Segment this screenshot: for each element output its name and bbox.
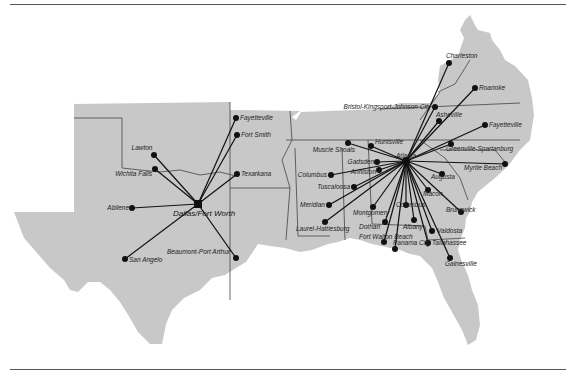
city-label: Dothan bbox=[359, 223, 380, 230]
city-label: Valdosta bbox=[437, 227, 462, 234]
city-marker-icon[interactable] bbox=[368, 143, 374, 149]
city-label: Montgomery bbox=[353, 209, 390, 217]
city-marker-icon[interactable] bbox=[152, 166, 158, 172]
city-label: Fort Walton Beach bbox=[359, 233, 413, 240]
city-label: Tuscaloosa bbox=[317, 183, 350, 190]
city-marker-icon[interactable] bbox=[233, 255, 239, 261]
city-marker-icon[interactable] bbox=[328, 172, 334, 178]
city-marker-icon[interactable] bbox=[472, 85, 478, 91]
city-marker-icon[interactable] bbox=[234, 132, 240, 138]
city-marker-icon[interactable] bbox=[151, 152, 157, 158]
city-marker-icon[interactable] bbox=[502, 161, 508, 167]
city-marker-icon[interactable] bbox=[234, 171, 240, 177]
city-marker-icon[interactable] bbox=[446, 60, 452, 66]
city-label: Fayetteville bbox=[489, 121, 522, 129]
land-mass bbox=[14, 15, 534, 345]
city-marker-icon[interactable] bbox=[351, 184, 357, 190]
city-marker-icon[interactable] bbox=[129, 205, 135, 211]
city-label: Muscle Shoals bbox=[313, 146, 356, 153]
city-label: Gadsden bbox=[348, 158, 375, 165]
city-label: Greenville-Spartanburg bbox=[446, 145, 514, 153]
city-marker-icon[interactable] bbox=[122, 256, 128, 262]
city-label: Albany bbox=[402, 223, 424, 231]
city-label: Huntsville bbox=[375, 138, 404, 145]
city-label: Augusta bbox=[430, 173, 455, 181]
city-marker-icon[interactable] bbox=[233, 115, 239, 121]
city-label: Columbus bbox=[396, 201, 426, 208]
city-label: Panama City bbox=[393, 239, 431, 247]
city-marker-icon[interactable] bbox=[436, 118, 442, 124]
city-label: Columbus bbox=[298, 171, 328, 178]
city-label: Anniston bbox=[350, 168, 377, 175]
city-label: Gainesville bbox=[445, 260, 477, 267]
city-label: Fort Smith bbox=[241, 131, 271, 138]
city-marker-icon[interactable] bbox=[392, 246, 398, 252]
city-marker-icon[interactable] bbox=[482, 122, 488, 128]
city-marker-icon[interactable] bbox=[374, 159, 380, 165]
city-label: Macon bbox=[423, 190, 443, 197]
city-label: Texarkana bbox=[241, 170, 271, 177]
route-map: LawtonWichita FallsAbileneSan AngeloBeau… bbox=[0, 0, 576, 382]
hub-marker-icon[interactable] bbox=[194, 200, 202, 208]
city-label: Brunswick bbox=[446, 206, 476, 213]
city-marker-icon[interactable] bbox=[432, 104, 438, 110]
city-label: Meridian bbox=[300, 201, 325, 208]
city-marker-icon[interactable] bbox=[326, 202, 332, 208]
city-label: Bristol-Kingsport-Johnson City bbox=[344, 103, 432, 111]
city-label: Abilene bbox=[106, 204, 129, 211]
city-label: Wichita Falls bbox=[115, 170, 153, 177]
city-label: Laurel-Hattiesburg bbox=[296, 225, 350, 233]
city-marker-icon[interactable] bbox=[376, 167, 382, 173]
city-label: Fayetteville bbox=[240, 114, 273, 122]
city-label: Beaumont-Port Arthur bbox=[167, 248, 231, 255]
city-label: Tallahassee bbox=[432, 239, 467, 246]
city-label: Lawton bbox=[132, 144, 153, 151]
city-label: Roanoke bbox=[479, 84, 505, 91]
hub-label: Dallas/Fort Worth bbox=[173, 209, 236, 218]
hub-label: Atlanta bbox=[395, 152, 417, 159]
city-label: Myrtle Beach bbox=[464, 164, 502, 172]
city-marker-icon[interactable] bbox=[382, 219, 388, 225]
city-marker-icon[interactable] bbox=[429, 228, 435, 234]
city-label: Asheville bbox=[435, 111, 462, 118]
city-label: San Angelo bbox=[129, 256, 163, 264]
city-label: Charleston bbox=[446, 52, 478, 59]
